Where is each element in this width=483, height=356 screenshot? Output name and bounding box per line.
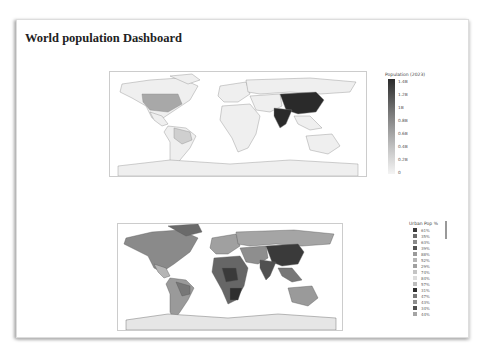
colorbar-tick: 0.8B: [398, 118, 408, 123]
legend-label: 29%: [421, 264, 430, 269]
legend-swatch: [413, 306, 417, 310]
colorbar-tick: 0: [398, 170, 401, 175]
legend-swatch: [413, 282, 417, 286]
colorbar-tick: 1B: [398, 105, 404, 110]
world-map-population: [110, 72, 366, 176]
legend-label: 43%: [421, 300, 430, 305]
legend-label: 63%: [421, 240, 430, 245]
legend-swatch: [413, 258, 417, 262]
legend-label: 35%: [421, 234, 430, 239]
colorbar-tick: 1.4B: [398, 79, 408, 84]
colorbar-tick: 0.4B: [398, 144, 408, 149]
population-map[interactable]: [109, 71, 367, 177]
legend-label: 52%: [421, 258, 430, 263]
colorbar-tick: 0.6B: [398, 131, 408, 136]
colorbar-tick: 1.2B: [398, 92, 408, 97]
legend-label: 57%: [421, 282, 430, 287]
legend-label: 88%: [421, 252, 430, 257]
population-colorbar: Population (2023) 1.4B 1.2B 1B 0.8B 0.6B…: [385, 72, 425, 77]
colorbar-title: Population (2023): [385, 72, 425, 77]
legend-swatch: [413, 246, 417, 250]
dashboard-card: World population Dashboard: [16, 19, 469, 338]
legend-scrollbar[interactable]: [445, 221, 447, 239]
legend-swatch: [413, 270, 417, 274]
legend-swatch: [413, 300, 417, 304]
page-title: World population Dashboard: [25, 31, 182, 46]
legend-label: 34%: [421, 306, 430, 311]
urban-pop-legend: Urban Pop % 61%35%63%39%88%52%29%74%84%5…: [409, 221, 438, 317]
legend-label: 44%: [421, 312, 430, 317]
legend-swatch: [413, 264, 417, 268]
legend-label: 47%: [421, 294, 430, 299]
legend-swatch: [413, 252, 417, 256]
legend-swatch: [413, 240, 417, 244]
legend-label: 31%: [421, 288, 430, 293]
legend-swatch: [413, 288, 417, 292]
legend-swatch: [413, 234, 417, 238]
legend-label: 84%: [421, 276, 430, 281]
legend-swatch: [413, 294, 417, 298]
legend-label: 61%: [421, 228, 430, 233]
colorbar-gradient: [388, 79, 395, 174]
urban-pop-map[interactable]: [117, 223, 343, 331]
world-map-urban: [118, 224, 342, 330]
legend-swatch: [413, 228, 417, 232]
legend-swatch: [413, 276, 417, 280]
legend-swatch: [413, 312, 417, 316]
colorbar-tick: 0.2B: [398, 157, 408, 162]
legend-title: Urban Pop %: [409, 221, 438, 226]
legend-label: 74%: [421, 270, 430, 275]
legend-label: 39%: [421, 246, 430, 251]
legend-item[interactable]: 44%: [409, 311, 438, 317]
